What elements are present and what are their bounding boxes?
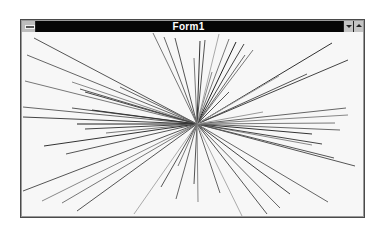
form1-window: Form1 (20, 19, 365, 218)
burst-line (197, 124, 198, 202)
triangle-down-icon (346, 25, 352, 28)
burst-line (27, 55, 197, 124)
burst-line (23, 124, 197, 191)
burst-line (197, 124, 220, 193)
client-area (22, 32, 363, 216)
burst-line (62, 124, 197, 203)
window-title: Form1 (36, 21, 341, 32)
triangle-up-icon (356, 24, 362, 27)
system-menu-button[interactable] (22, 21, 36, 32)
burst-line (153, 33, 197, 124)
burst-line (34, 38, 197, 124)
burst-line (197, 34, 219, 124)
burst-line (197, 44, 244, 124)
burst-line (197, 50, 253, 124)
minimize-button[interactable] (343, 21, 353, 32)
title-bar[interactable]: Form1 (22, 21, 363, 32)
burst-line (25, 81, 197, 124)
burst-line (175, 38, 197, 124)
system-menu-icon (25, 25, 35, 29)
burst-line (77, 124, 197, 211)
burst-line (134, 124, 197, 214)
burst-line (176, 124, 197, 199)
maximize-button[interactable] (353, 21, 363, 32)
starburst-drawing (22, 32, 363, 216)
burst-line (197, 42, 236, 124)
